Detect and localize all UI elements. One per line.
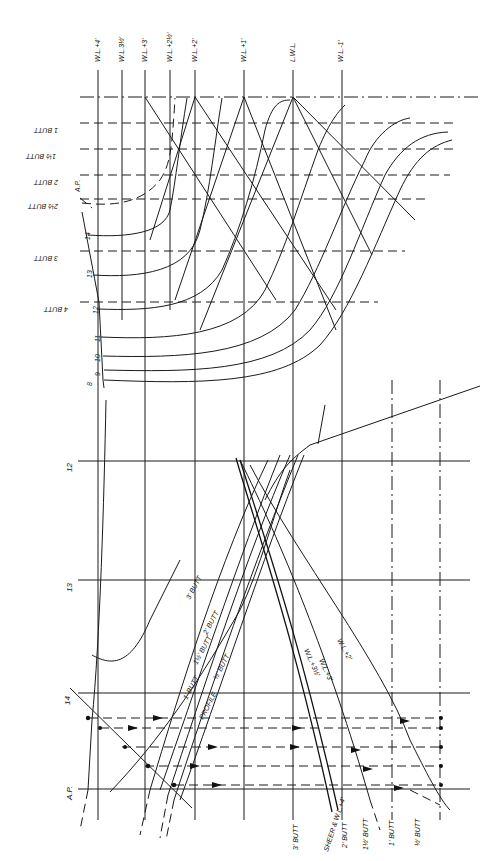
body-plan-diagonals: [145, 97, 415, 330]
buttock-label: 4 BUTT: [43, 306, 68, 313]
waterline-label: W.L.+4': [94, 38, 101, 62]
sheer-curve: [265, 386, 480, 500]
lines-drawing: W.L.+4' W.L.3½' W.L.+3' W.L.+2½' W.L.+2'…: [0, 0, 495, 861]
butt-label: 2' BUTT: [341, 822, 348, 849]
station-label: 11: [94, 335, 101, 342]
butt-label: 3' BUTT: [292, 824, 299, 850]
butt-label: 1' BUTT: [388, 820, 395, 846]
curve-label: W.L.+3½': [303, 648, 322, 678]
butt-label: ½' BUTT: [414, 818, 421, 846]
curve-label: 3' BUTT: [185, 574, 203, 600]
body-plan-buttocks: [80, 123, 458, 302]
waterline-label: L.W.L.: [289, 42, 296, 62]
station-label: 8: [86, 382, 93, 386]
station-label: 12: [92, 306, 99, 314]
station-label: A.P.: [65, 786, 74, 801]
curve-label: W.L.+2': [336, 637, 353, 662]
butt-label: 1½' BUTT: [362, 818, 369, 850]
buttock-label: 3 BUTT: [33, 255, 58, 262]
waterline-label: W.L.+1': [240, 38, 247, 62]
waterline-curve-labels: W.L.+2' W.L.+3' W.L.+3½': [303, 637, 354, 682]
curve-label: 2' BUTT: [201, 609, 220, 636]
waterline-label: W.L.+3': [141, 38, 148, 62]
station-label: 13: [86, 270, 93, 278]
body-plan-buttock-labels: 1 BUTT 1½ BUTT 2 BUTT 2½ BUTT 3 BUTT 4 B…: [25, 127, 68, 313]
waterline-label: W.L.3½': [118, 36, 125, 62]
curve-label: PROFILE: [198, 690, 218, 720]
projection-lines: [89, 718, 440, 785]
buttock-label: 1½ BUTT: [25, 153, 56, 160]
waterline-grid: [98, 70, 440, 820]
waterline-label: W.L.+2': [191, 38, 198, 62]
waterline-label: W.L.+2½': [166, 32, 173, 62]
waterline-label: W.L.-1': [337, 40, 344, 62]
buttock-label: 2½ BUTT: [27, 203, 59, 210]
bottom-labels: 3' BUTT SHEER & W.L.+4' 2' BUTT 1½' BUTT…: [292, 796, 421, 852]
projection-arrows: [128, 715, 410, 791]
body-plan-station-labels: A.P. 14 13 12 11 10 9 8: [74, 180, 101, 386]
body-plan-stations: [82, 98, 452, 382]
station-label: 13: [65, 583, 74, 592]
profile-waterlines: [236, 458, 450, 812]
profile-curve-labels: 3' BUTT 2' BUTT 1½' BUTT 1' BUTT ½' BUTT…: [182, 574, 231, 720]
buttock-label: 1 BUTT: [33, 127, 58, 134]
station-label: 9: [94, 372, 101, 376]
station-label: 14: [63, 696, 72, 705]
buttock-label: 2 BUTT: [33, 179, 59, 186]
projection-dots: [86, 716, 443, 788]
station-label: 12: [65, 463, 74, 472]
station-label: 10: [94, 354, 101, 362]
station-label: A.P.: [74, 180, 81, 193]
waterline-label-group: W.L.+4' W.L.3½' W.L.+3' W.L.+2½' W.L.+2'…: [94, 32, 344, 62]
